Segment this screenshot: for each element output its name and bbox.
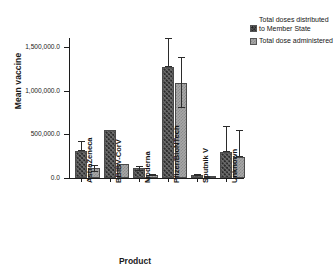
error-cap-bottom [223, 151, 230, 152]
error-bar-distributed [197, 174, 198, 176]
bar-chart: Mean vaccine 1,500,000.01,000,000.0500,0… [0, 0, 333, 278]
error-cap-top [165, 38, 172, 39]
error-cap-top [178, 57, 185, 58]
x-tick-label: Unknown [230, 149, 239, 183]
y-tick-label: 1,500,000.0 [25, 43, 60, 50]
legend-label-administered: Total dose administered [259, 37, 333, 46]
y-tick-label: 0.0 [51, 174, 60, 181]
y-tick-mark [64, 178, 70, 179]
x-tick-label: BBIBV-CorV [114, 139, 123, 183]
error-bar-distributed [226, 126, 227, 152]
x-tick-mark [226, 178, 227, 182]
administered-swatch-icon [250, 38, 257, 45]
x-axis-title: Product [60, 256, 210, 266]
legend-label-distributed: Total doses distributed to Member State [259, 16, 333, 33]
error-bar-administered [181, 57, 182, 108]
legend-item-administered: Total dose administered [250, 37, 333, 46]
error-bar-distributed [81, 141, 82, 151]
x-tick-label: AstraZeneca [85, 137, 94, 183]
error-cap-top [136, 166, 143, 167]
plot-area [70, 38, 244, 178]
error-cap-bottom [165, 66, 172, 67]
error-cap-bottom [178, 107, 185, 108]
x-tick-mark [139, 178, 140, 182]
x-tick-label: Pfizer/BioNTech [172, 125, 181, 183]
y-tick-label: 500,000.0 [31, 130, 60, 137]
x-tick-mark [168, 178, 169, 182]
error-cap-top [78, 141, 85, 142]
y-tick-label: 1,000,000.0 [25, 87, 60, 94]
y-axis-title: Mean vaccine [13, 41, 23, 121]
error-cap-top [223, 126, 230, 127]
error-bar-distributed [168, 38, 169, 67]
chart-legend: Total doses distributed to Member State … [250, 16, 333, 50]
error-cap-bottom [136, 170, 143, 171]
distributed-swatch-icon [250, 25, 257, 32]
legend-item-distributed: Total doses distributed to Member State [250, 16, 333, 33]
x-axis-line [69, 178, 244, 179]
error-cap-top [236, 130, 243, 131]
x-tick-label: Moderna [143, 151, 152, 183]
x-tick-mark [81, 178, 82, 182]
x-tick-mark [110, 178, 111, 182]
x-tick-label: Sputnik V [201, 148, 210, 183]
error-cap-bottom [194, 175, 201, 176]
error-bar-distributed [139, 166, 140, 172]
x-tick-mark [197, 178, 198, 182]
error-cap-bottom [78, 150, 85, 151]
